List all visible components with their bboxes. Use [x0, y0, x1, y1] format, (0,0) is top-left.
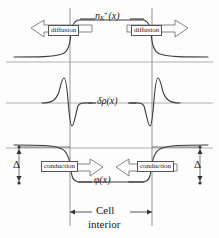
delta-dot-bottom-left [17, 181, 20, 184]
label-conduction-right: conduction [137, 161, 174, 172]
delta-arrowhead-down-left [16, 176, 21, 181]
figure-canvas: nK+(x) diffusion diffusion δρ(x) φ(x) co… [0, 0, 219, 238]
diagram-svg [0, 0, 219, 238]
delta-arrowhead-down-right [197, 176, 202, 181]
cell-span-arrowhead-left [70, 210, 75, 215]
curve-charge-spike-left [42, 78, 92, 126]
label-delta-left: Δ [13, 159, 20, 170]
caption-line-2: interior [88, 219, 120, 230]
label-conduction-left: conduction [41, 161, 78, 172]
delta-arrowhead-up-left [16, 149, 21, 154]
delta-arrowhead-up-right [197, 149, 202, 154]
delta-dot-bottom-right [198, 181, 201, 184]
label-charge-density: δρ(x) [97, 96, 118, 106]
label-potential: φ(x) [94, 175, 111, 185]
label-concentration-arg: (x) [109, 10, 120, 21]
label-diffusion-right: diffusion [131, 25, 162, 36]
label-delta-right: Δ [194, 159, 201, 170]
caption-line-1: Cell [96, 205, 114, 216]
label-concentration-superscript: + [104, 11, 107, 17]
label-diffusion-left: diffusion [48, 25, 79, 36]
cell-span-arrowhead-right [147, 210, 152, 215]
label-concentration: nK+(x) [95, 11, 120, 21]
curve-charge-spike-right [130, 78, 180, 126]
